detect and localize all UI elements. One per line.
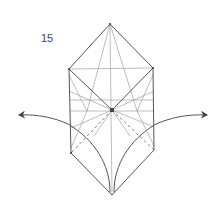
origami-diagram-step: 15	[0, 0, 222, 202]
right-unfold-arrow-icon	[156, 115, 207, 124]
unfold-arrows	[19, 115, 207, 124]
fold-diagram	[0, 0, 222, 202]
left-unfold-arrow-icon	[19, 115, 68, 124]
valley-fold-lines	[71, 110, 154, 153]
